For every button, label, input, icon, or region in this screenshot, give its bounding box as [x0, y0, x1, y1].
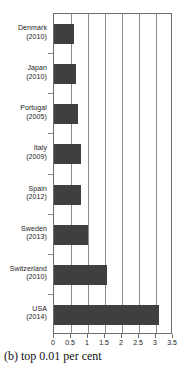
category-label-usa: USA(2014): [0, 305, 47, 322]
bar-row: [54, 14, 171, 54]
category-country: Italy: [34, 144, 47, 151]
category-label-sweden: Sweden(2013): [0, 225, 47, 242]
chart-plot-area: [53, 13, 172, 334]
bar-row: [54, 54, 171, 94]
x-tick-label-3: 3: [153, 338, 157, 347]
category-year: (2013): [0, 233, 47, 242]
category-separator-tick: [48, 93, 53, 94]
category-year: (2014): [0, 313, 47, 322]
bar-sweden: [54, 225, 88, 245]
category-label-portugal: Portugal(2005): [0, 104, 47, 121]
x-tick-label-2.5: 2.5: [133, 338, 143, 347]
bar-row: [54, 295, 171, 335]
category-year: (2010): [0, 73, 47, 82]
x-tick-label-1.5: 1.5: [99, 338, 109, 347]
bar-usa: [54, 305, 159, 325]
category-country: Sweden: [21, 225, 47, 232]
category-year: (2012): [0, 193, 47, 202]
bar-japan: [54, 64, 76, 84]
category-country: Portugal: [20, 104, 47, 111]
category-separator-tick: [48, 174, 53, 175]
x-tick-label-1: 1: [85, 338, 89, 347]
category-country: USA: [32, 305, 47, 312]
category-separator-tick: [48, 294, 53, 295]
x-tick-label-0.5: 0.5: [65, 338, 75, 347]
category-year: (2009): [0, 153, 47, 162]
category-country: Japan: [27, 64, 47, 71]
category-country: Spain: [29, 185, 47, 192]
category-label-spain: Spain(2012): [0, 185, 47, 202]
bar-spain: [54, 185, 81, 205]
category-country: Switzerland: [10, 265, 47, 272]
bar-row: [54, 175, 171, 215]
category-label-japan: Japan(2010): [0, 64, 47, 81]
bar-row: [54, 255, 171, 295]
figure-caption: (b) top 0.01 per cent: [4, 349, 102, 364]
bar-row: [54, 134, 171, 174]
bar-switzerland: [54, 265, 107, 285]
bar-italy: [54, 144, 81, 164]
bar-portugal: [54, 104, 78, 124]
category-label-italy: Italy(2009): [0, 144, 47, 161]
bar-denmark: [54, 24, 74, 44]
category-separator-tick: [48, 133, 53, 134]
category-year: (2010): [0, 33, 47, 42]
category-separator-tick: [48, 254, 53, 255]
x-tick-label-3.5: 3.5: [167, 338, 177, 347]
category-separator-tick: [48, 214, 53, 215]
x-tick-label-0: 0: [51, 338, 55, 347]
x-tick-label-2: 2: [119, 338, 123, 347]
figure-panel-b: Denmark(2010)Japan(2010)Portugal(2005)It…: [0, 0, 187, 369]
category-label-denmark: Denmark(2010): [0, 24, 47, 41]
category-country: Denmark: [18, 24, 47, 31]
category-label-switzerland: Switzerland(2010): [0, 265, 47, 282]
bar-row: [54, 94, 171, 134]
category-year: (2010): [0, 273, 47, 282]
category-year: (2005): [0, 113, 47, 122]
category-separator-tick: [48, 53, 53, 54]
bar-row: [54, 215, 171, 255]
